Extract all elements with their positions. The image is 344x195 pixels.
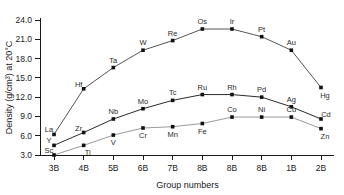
data-point-label: Zr (75, 124, 83, 133)
data-point-marker (112, 117, 116, 121)
density-vs-group-chart: 3.06.09.012.015.018.021.024.0 3B4B5B6B7B… (0, 0, 344, 195)
data-point-marker (112, 133, 116, 137)
data-point-marker (82, 131, 86, 135)
y-axis-tick-label: 3.0 (20, 150, 32, 160)
data-point-label: Sc (45, 146, 54, 155)
y-axis-tick-label: 18.0 (15, 54, 32, 64)
data-point-label: Au (287, 38, 296, 47)
data-point-marker (319, 127, 323, 131)
data-point-label: La (45, 125, 54, 134)
data-point-marker (230, 93, 234, 97)
data-point-marker (201, 27, 205, 31)
x-axis-tick-label: 1B (286, 163, 297, 173)
data-point-label: Pd (257, 85, 266, 94)
data-point-marker (290, 115, 294, 119)
data-point-label: Ti (85, 148, 91, 157)
data-point-label: Nb (109, 107, 119, 116)
y-axis-tick-label: 15.0 (15, 73, 32, 83)
y-axis-tick-label: 24.0 (15, 15, 32, 25)
data-point-label: Cd (321, 110, 331, 119)
data-point-marker (260, 115, 264, 119)
data-point-marker (112, 66, 116, 70)
data-series-group (52, 27, 323, 157)
data-point-label: Ru (198, 83, 208, 92)
x-axis-ticks: 3B4B5B6B7B8B8B8B1B2B (49, 155, 327, 173)
x-axis-tick-label: 8B (256, 163, 267, 173)
data-point-marker (319, 86, 323, 90)
data-point-label: Co (227, 105, 237, 114)
series-line (54, 29, 321, 134)
data-point-marker (141, 107, 145, 111)
data-point-label: Zn (321, 132, 330, 141)
y-axis-tick-label: 9.0 (20, 111, 32, 121)
x-axis-tick-label: 3B (49, 163, 60, 173)
x-axis-tick-label: 7B (167, 163, 178, 173)
x-axis-tick-label: 8B (227, 163, 238, 173)
y-axis-tick-label: 6.0 (20, 131, 32, 141)
data-point-label: Ni (258, 105, 265, 114)
data-point-label: W (139, 38, 147, 47)
point-labels-group: LaHfTaWReOsIrPtAuHgYZrNbMoTcRuRhPdAgCdSc… (45, 17, 331, 157)
data-point-label: Hg (320, 91, 330, 100)
y-axis-tick-label: 21.0 (15, 34, 32, 44)
data-point-marker (171, 125, 175, 129)
y-axis-tick-label: 12.0 (15, 92, 32, 102)
x-axis-tick-label: 6B (138, 163, 149, 173)
data-point-label: Os (198, 17, 208, 26)
data-point-label: Cr (139, 131, 147, 140)
x-axis-title: Group numbers (156, 180, 219, 190)
data-point-marker (260, 95, 264, 99)
data-point-marker (201, 93, 205, 97)
data-point-label: Hf (75, 80, 83, 89)
data-point-marker (230, 27, 234, 31)
data-point-label: Mn (167, 130, 177, 139)
data-point-label: Re (168, 29, 178, 38)
data-point-marker (141, 48, 145, 52)
data-point-marker (82, 144, 86, 148)
data-point-marker (290, 48, 294, 52)
series-line (54, 117, 321, 155)
series-line (54, 95, 321, 146)
data-point-marker (171, 99, 175, 103)
data-point-label: Ag (287, 95, 296, 104)
data-point-label: Mo (138, 97, 148, 106)
x-axis-tick-label: 2B (316, 163, 327, 173)
data-point-label: Cu (287, 105, 297, 114)
x-axis-tick-label: 8B (197, 163, 208, 173)
data-point-label: Fe (198, 127, 207, 136)
y-axis-ticks: 3.06.09.012.015.018.021.024.0 (15, 15, 40, 160)
data-point-label: Rh (227, 83, 237, 92)
data-point-label: Ta (109, 56, 118, 65)
data-point-label: Pt (258, 25, 266, 34)
x-axis-tick-label: 5B (108, 163, 119, 173)
y-axis-title: Density (g/cm³) at 20°C (4, 40, 14, 134)
chart-canvas: 3.06.09.012.015.018.021.024.0 3B4B5B6B7B… (0, 0, 344, 195)
x-axis-tick-label: 4B (78, 163, 89, 173)
data-point-label: Tc (169, 88, 177, 97)
data-point-marker (201, 122, 205, 126)
data-point-marker (260, 35, 264, 39)
data-point-marker (171, 39, 175, 43)
data-point-marker (230, 115, 234, 119)
data-point-marker (141, 126, 145, 130)
data-point-label: V (111, 138, 116, 147)
data-point-label: Y (46, 136, 51, 145)
data-point-label: Ir (230, 17, 235, 26)
